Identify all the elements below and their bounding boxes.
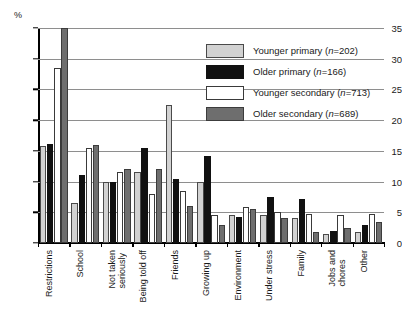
x-axis-category-label: Under stress: [265, 250, 275, 301]
x-axis-category-label: Restrictions: [45, 250, 55, 297]
y-axis-tick-mark: [33, 58, 38, 59]
y-axis-tick-mark: [33, 150, 38, 151]
bar: [187, 206, 193, 243]
bar: [292, 218, 298, 243]
x-axis-category-label: Other: [360, 250, 370, 273]
y-axis-tick-mark: [33, 27, 38, 28]
y-axis-tick-label: 35: [380, 23, 402, 34]
legend-swatch: [206, 65, 244, 79]
legend-item: Older primary (n=166): [206, 61, 370, 82]
legend-swatch: [206, 44, 244, 58]
bar: [229, 215, 235, 243]
x-axis-tick-mark: [69, 242, 70, 247]
y-axis-tick-label: 25: [380, 84, 402, 95]
bar: [61, 28, 67, 243]
x-axis-category-label: Jobs and chores: [328, 250, 347, 287]
x-axis-tick-mark: [290, 242, 291, 247]
legend-label: Younger secondary (n=713): [253, 87, 370, 98]
x-axis-tick-mark: [101, 242, 102, 247]
x-axis-tick-mark: [38, 242, 39, 247]
legend-item: Younger secondary (n=713): [206, 82, 370, 103]
y-axis-tick-mark: [33, 89, 38, 90]
legend-label: Older primary (n=166): [253, 66, 346, 77]
bar: [173, 179, 179, 244]
x-axis-tick-mark: [164, 242, 165, 247]
legend-label: Older secondary (n=689): [253, 108, 358, 119]
y-axis-tick-mark: [33, 119, 38, 120]
legend: Younger primary (n=202)Older primary (n=…: [206, 40, 370, 124]
y-axis-tick-mark: [33, 212, 38, 213]
bar: [110, 182, 116, 243]
bar: [337, 215, 343, 243]
bar: [141, 148, 147, 243]
bar: [40, 146, 46, 243]
bar: [47, 144, 53, 244]
bar: [355, 232, 361, 243]
y-axis-tick-label: 30: [380, 53, 402, 64]
x-axis-tick-mark: [195, 242, 196, 247]
y-axis-tick-label: 15: [380, 145, 402, 156]
bar-group: [134, 28, 162, 243]
y-axis-tick-label: 5: [380, 207, 402, 218]
bar: [274, 212, 280, 243]
bar: [267, 197, 273, 243]
x-axis-tick-mark: [353, 242, 354, 247]
x-axis-tick-mark: [227, 242, 228, 247]
y-axis-tick-label: 20: [380, 115, 402, 126]
bar: [243, 207, 249, 243]
bar-group: [71, 28, 99, 243]
bar: [323, 234, 329, 243]
bar: [250, 209, 256, 243]
legend-swatch: [206, 86, 244, 100]
legend-item: Older secondary (n=689): [206, 103, 370, 124]
bar: [362, 225, 368, 243]
bar: [71, 203, 77, 243]
x-axis-tick-mark: [258, 242, 259, 247]
bar: [86, 148, 92, 243]
bar-chart: % 05101520253035 RestrictionsSchoolNot t…: [0, 0, 402, 314]
bar: [149, 194, 155, 243]
bar: [204, 156, 210, 243]
bar: [197, 182, 203, 243]
bar: [299, 199, 305, 243]
bar: [54, 68, 60, 243]
x-axis-category-label: School: [76, 250, 86, 278]
bar: [313, 232, 319, 243]
bar: [134, 172, 140, 243]
bar: [330, 231, 336, 243]
bar: [281, 218, 287, 243]
bar: [344, 228, 350, 243]
bar-group: [166, 28, 194, 243]
legend-label: Younger primary (n=202): [253, 45, 358, 56]
bar: [103, 182, 109, 243]
y-axis-tick-label: 10: [380, 176, 402, 187]
x-axis-category-label: Family: [297, 250, 307, 277]
legend-swatch: [206, 107, 244, 121]
bar: [156, 169, 162, 243]
y-axis-unit-label: %: [14, 10, 22, 20]
x-axis-tick-mark: [384, 242, 385, 247]
bar: [93, 145, 99, 243]
bar: [180, 191, 186, 243]
bar: [260, 215, 266, 243]
x-axis-category-label: Growing up: [202, 250, 212, 296]
bar: [124, 169, 130, 243]
bar: [369, 214, 375, 243]
x-axis-tick-mark: [132, 242, 133, 247]
bar-group: [40, 28, 68, 243]
bar: [219, 225, 225, 243]
x-axis-category-label: Environment: [234, 250, 244, 301]
x-axis-category-label: Friends: [171, 250, 181, 280]
bar: [117, 172, 123, 243]
x-axis-category-label: Not taken seriously: [108, 250, 127, 289]
bar-group: [103, 28, 131, 243]
bar: [306, 214, 312, 243]
x-axis-tick-mark: [321, 242, 322, 247]
bar: [79, 175, 85, 243]
x-axis-category-label: Being told off: [139, 250, 149, 302]
bar: [211, 215, 217, 243]
bar: [236, 217, 242, 243]
bar: [166, 105, 172, 243]
legend-item: Younger primary (n=202): [206, 40, 370, 61]
y-axis-tick-mark: [33, 181, 38, 182]
